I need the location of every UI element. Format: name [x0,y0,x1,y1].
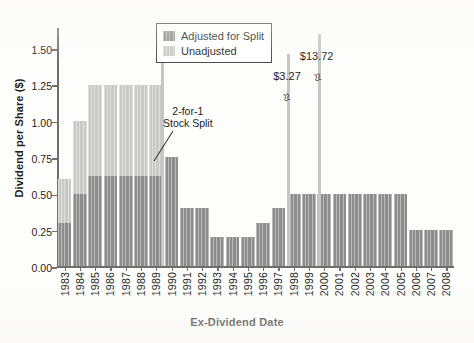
plot-area: ≈$3.27≈$13.72 [57,28,454,268]
bar-segment-adjusted [104,176,118,267]
y-axis-tick-label: 0.00 [32,262,52,274]
x-axis-tick-label: 1993 [211,272,223,296]
bar-segment-unadjusted [119,85,133,176]
x-axis-tick-labels: 1983198419851986198719881989199019911992… [57,272,454,316]
y-axis-tick-labels: 0.000.250.500.751.001.251.50 [12,28,52,268]
legend-label-adjusted: Adjusted for Split [181,30,264,42]
x-axis-tick-label: 2005 [395,272,407,296]
y-axis-tick [52,267,57,268]
bar-column [424,26,438,266]
stock-split-annotation: 2-for-1 Stock Split [163,105,213,129]
legend-item-unadjusted: Unadjusted [163,43,264,58]
legend-swatch-adjusted-icon [163,31,175,41]
x-axis-tick [187,266,188,271]
x-axis-tick [233,266,234,271]
x-axis-tick [263,266,264,271]
bar-segment-adjusted [73,194,87,267]
bar-segment-adjusted [439,230,453,266]
x-axis-tick [80,266,81,271]
bar-segment-adjusted [363,194,377,267]
bar-segment-adjusted [58,223,72,267]
broken-axis-spike-2000 [318,34,321,266]
x-axis-tick [309,266,310,271]
y-axis-tick-label: 1.50 [32,44,52,56]
bar-column [73,26,87,266]
y-axis-tick-label: 0.75 [32,153,52,165]
x-axis-tick-label: 1999 [303,272,315,296]
x-axis-tick-label: 2004 [379,272,391,296]
x-axis-tick-label: 1995 [242,272,254,296]
stock-split-annotation-line1: 2-for-1 [163,105,213,117]
legend-item-adjusted: Adjusted for Split [163,28,264,43]
bar-column [302,26,316,266]
spike-value-label-2000: $13.72 [300,50,334,62]
x-axis-tick-label: 1989 [150,272,162,296]
x-axis-line [57,266,454,268]
x-axis-tick [431,266,432,271]
x-axis-tick-label: 1990 [166,272,178,296]
x-axis-tick [126,266,127,271]
x-axis-tick [217,266,218,271]
bar-segment-adjusted [333,194,347,267]
x-axis-tick-label: 1992 [196,272,208,296]
bar-column [134,26,148,266]
bar-column [104,26,118,266]
legend-label-unadjusted: Unadjusted [181,45,237,57]
y-axis-tick-label: 1.00 [32,117,52,129]
spike-value-label-1998: $3.27 [273,70,301,82]
bar-column [363,26,377,266]
x-axis-tick-label: 2002 [349,272,361,296]
y-axis-tick-label: 0.50 [32,189,52,201]
x-axis-tick [202,266,203,271]
x-axis-tick [324,266,325,271]
x-axis-tick-label: 2003 [364,272,376,296]
x-axis-tick-label: 1983 [59,272,71,296]
bar-segment-adjusted [180,208,194,266]
bar-column [409,26,423,266]
x-axis-tick [385,266,386,271]
bar-segment-adjusted [302,194,316,267]
bar-column [58,26,72,266]
bar-segment-adjusted [394,194,408,267]
bar-segment-adjusted [256,223,270,267]
bar-segment-unadjusted [104,85,118,176]
bar-segment-adjusted [409,230,423,266]
x-axis-tick [95,266,96,271]
chart-figure: Dividend per Share ($) 0.000.250.500.751… [0,0,474,343]
x-axis-tick-label: 2007 [425,272,437,296]
bar-segment-unadjusted [88,85,102,176]
bar-column [348,26,362,266]
x-axis-tick [248,266,249,271]
x-axis-tick [110,266,111,271]
bar-segment-unadjusted [73,121,87,194]
stock-split-annotation-line2: Stock Split [163,117,213,129]
bar-segment-adjusted [195,208,209,266]
bar-segment-adjusted [241,237,255,266]
x-axis-tick-label: 1996 [257,272,269,296]
y-axis-tick-label: 1.25 [32,80,52,92]
x-axis-tick [172,266,173,271]
bar-segment-unadjusted [134,85,148,176]
x-axis-tick-label: 1984 [74,272,86,296]
x-axis-tick-label: 1991 [181,272,193,296]
x-axis-tick [446,266,447,271]
x-axis-tick-label: 1997 [272,272,284,296]
bar-segment-adjusted [165,157,179,266]
bar-column [333,26,347,266]
legend-swatch-unadjusted-icon [163,46,175,56]
bar-segment-adjusted [424,230,438,266]
x-axis-tick-label: 1985 [89,272,101,296]
x-axis-tick-label: 1987 [120,272,132,296]
x-axis-tick-label: 1988 [135,272,147,296]
x-axis-tick-label: 2001 [333,272,345,296]
bar-segment-adjusted [134,176,148,267]
y-axis-tick-label: 0.25 [32,226,52,238]
x-axis-tick [355,266,356,271]
bar-segment-adjusted [378,194,392,267]
bar-segment-adjusted [210,237,224,266]
broken-axis-spike-1998 [287,54,290,266]
x-axis-tick-label: 2000 [318,272,330,296]
bar-column [394,26,408,266]
bar-segment-adjusted [119,176,133,267]
x-axis-tick [339,266,340,271]
